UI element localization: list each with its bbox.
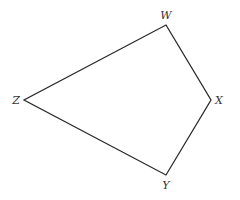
vertex-label-z: Z — [11, 94, 20, 107]
quadrilateral-wxyz — [24, 25, 211, 175]
quadrilateral-diagram: W X Y Z — [0, 0, 240, 200]
vertex-label-w: W — [160, 9, 173, 22]
vertex-label-y: Y — [162, 179, 171, 192]
vertex-label-x: X — [214, 94, 224, 107]
